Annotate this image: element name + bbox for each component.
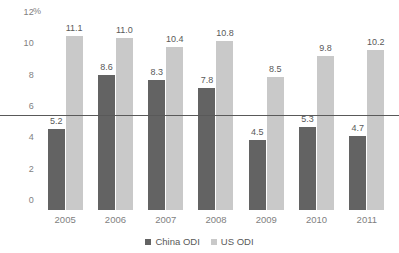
x-axis-tick-2008: 2008	[191, 214, 241, 225]
y-axis-tick-10: 10	[24, 38, 34, 48]
bar-group-2008: 7.810.8	[191, 22, 241, 210]
x-axis-tick-2010: 2010	[291, 214, 341, 225]
bar-value-label: 11.0	[116, 25, 133, 35]
legend-item-us-odi[interactable]: US ODI	[211, 236, 254, 247]
bar-group-2010: 5.39.8	[291, 22, 341, 210]
bar-groups: 5.211.18.611.08.310.47.810.84.58.55.39.8…	[40, 22, 392, 210]
y-axis-tick-2: 2	[29, 164, 34, 174]
y-axis-tick-8: 8	[29, 70, 34, 80]
x-axis-tick-labels: 2005200620072008200920102011	[40, 214, 392, 225]
bar-us-odi-2006: 11.0	[116, 38, 133, 210]
bar-group-2006: 8.611.0	[90, 22, 140, 210]
bar-us-odi-2011: 10.2	[367, 50, 384, 210]
y-axis-tick-4: 4	[29, 132, 34, 142]
bar-group-2011: 4.710.2	[342, 22, 392, 210]
bar-value-label: 10.2	[367, 37, 385, 47]
legend-swatch-icon	[145, 239, 151, 245]
chart-legend: China ODIUS ODI	[0, 236, 399, 247]
y-axis-tick-0: 0	[29, 195, 34, 205]
bar-value-label: 9.8	[319, 43, 332, 53]
reference-line	[0, 115, 399, 116]
x-axis-tick-2005: 2005	[40, 214, 90, 225]
bar-china-odi-2010: 5.3	[299, 127, 316, 210]
bar-china-odi-2007: 8.3	[148, 80, 165, 210]
bar-value-label: 8.6	[100, 62, 113, 72]
bar-value-label: 8.5	[269, 64, 282, 74]
bar-china-odi-2005: 5.2	[48, 129, 65, 210]
legend-label: US ODI	[221, 236, 254, 247]
bar-value-label: 10.4	[166, 34, 184, 44]
x-axis-tick-2011: 2011	[342, 214, 392, 225]
bar-group-2007: 8.310.4	[141, 22, 191, 210]
bar-value-label: 10.8	[216, 28, 234, 38]
y-axis-tick-12: 12	[24, 7, 34, 17]
bar-us-odi-2010: 9.8	[317, 56, 334, 210]
bar-us-odi-2007: 10.4	[166, 47, 183, 210]
bar-us-odi-2009: 8.5	[267, 77, 284, 210]
y-axis-unit-label: %	[33, 6, 41, 16]
bar-group-2009: 4.58.5	[241, 22, 291, 210]
bar-value-label: 7.8	[201, 75, 214, 85]
bar-value-label: 4.5	[251, 127, 264, 137]
x-axis-tick-2009: 2009	[241, 214, 291, 225]
bar-value-label: 11.1	[66, 23, 83, 33]
bar-us-odi-2005: 11.1	[66, 36, 83, 210]
x-axis-tick-2006: 2006	[90, 214, 140, 225]
bar-value-label: 5.2	[50, 116, 63, 126]
bar-us-odi-2008: 10.8	[216, 41, 233, 210]
bar-chart: % 024681012 5.211.18.611.08.310.47.810.8…	[0, 0, 399, 253]
y-axis-tick-6: 6	[29, 101, 34, 111]
legend-label: China ODI	[155, 236, 199, 247]
bar-china-odi-2006: 8.6	[98, 75, 115, 210]
bar-value-label: 4.7	[352, 123, 365, 133]
plot-area: 024681012 5.211.18.611.08.310.47.810.84.…	[40, 22, 392, 210]
legend-item-china-odi[interactable]: China ODI	[145, 236, 199, 247]
x-axis-tick-2007: 2007	[141, 214, 191, 225]
bar-china-odi-2008: 7.8	[198, 88, 215, 210]
legend-swatch-icon	[211, 239, 217, 245]
bar-group-2005: 5.211.1	[40, 22, 90, 210]
bar-china-odi-2009: 4.5	[249, 140, 266, 211]
bar-value-label: 8.3	[150, 67, 163, 77]
bar-china-odi-2011: 4.7	[349, 136, 366, 210]
